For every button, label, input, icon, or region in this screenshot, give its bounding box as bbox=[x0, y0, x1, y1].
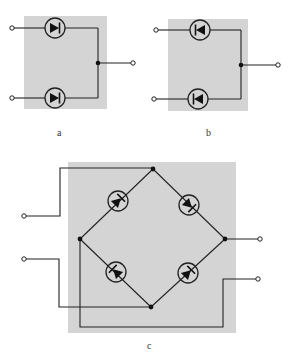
input-terminal bbox=[10, 26, 14, 30]
panel-c-label: c bbox=[147, 340, 151, 351]
panel-c bbox=[22, 162, 262, 333]
input-terminal bbox=[154, 28, 158, 32]
panel-b-label: b bbox=[206, 127, 211, 138]
panel-a-label: a bbox=[57, 127, 61, 138]
input-terminal bbox=[22, 257, 26, 261]
output-terminal bbox=[276, 63, 280, 67]
input-terminal bbox=[152, 97, 156, 101]
junction-node bbox=[151, 167, 156, 172]
panel-a-background bbox=[24, 16, 107, 109]
panel-b bbox=[152, 19, 280, 111]
junction-node bbox=[239, 63, 244, 68]
panel-a bbox=[10, 16, 135, 109]
input-terminal bbox=[22, 214, 26, 218]
output-terminal bbox=[131, 61, 135, 65]
junction-node bbox=[149, 305, 154, 310]
junction-node bbox=[223, 237, 228, 242]
junction-node bbox=[96, 61, 101, 66]
circuit-diagram bbox=[0, 0, 293, 362]
input-terminal bbox=[10, 96, 14, 100]
junction-node bbox=[78, 237, 83, 242]
output-terminal bbox=[258, 237, 262, 241]
output-terminal bbox=[256, 277, 260, 281]
